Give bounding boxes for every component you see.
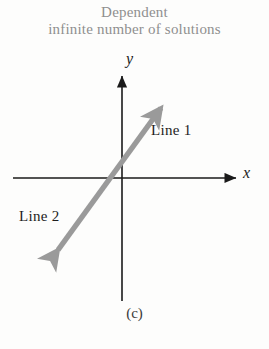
figure-caption: (c) bbox=[0, 305, 269, 322]
figure-panel: Dependent infinite number of solutions y… bbox=[0, 0, 269, 349]
x-axis-label: x bbox=[243, 164, 250, 182]
y-axis-label: y bbox=[126, 50, 133, 68]
coincident-line-arrow bbox=[58, 108, 161, 250]
line-2-label: Line 2 bbox=[19, 208, 60, 225]
line-1-label: Line 1 bbox=[151, 122, 192, 139]
coordinate-plane bbox=[0, 0, 269, 349]
